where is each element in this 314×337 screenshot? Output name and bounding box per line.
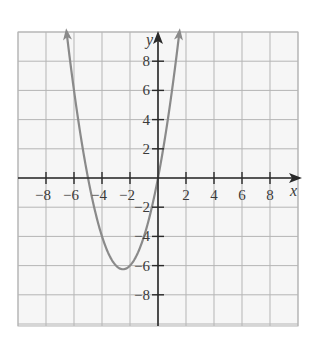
- x-tick-label: −8: [35, 187, 51, 203]
- x-tick-label: 2: [182, 187, 190, 203]
- x-tick-label: −6: [63, 187, 79, 203]
- x-tick-label: 6: [238, 187, 246, 203]
- x-tick-label: −2: [119, 187, 135, 203]
- y-tick-label: 6: [143, 82, 151, 98]
- y-tick-label: −4: [134, 228, 150, 244]
- y-tick-label: −8: [134, 287, 150, 303]
- x-tick-label: −4: [91, 187, 107, 203]
- y-tick-label: −2: [134, 199, 150, 215]
- y-tick-label: 8: [143, 53, 151, 69]
- graph: −8−6−4−224688642−2−4−6−8 x y: [0, 0, 314, 337]
- y-tick-label: 2: [143, 141, 151, 157]
- x-tick-label: 4: [210, 187, 218, 203]
- y-tick-label: −6: [134, 258, 150, 274]
- y-axis-label: y: [144, 31, 154, 49]
- y-tick-label: 4: [143, 112, 151, 128]
- x-tick-label: 8: [266, 187, 274, 203]
- x-axis-label: x: [289, 182, 297, 199]
